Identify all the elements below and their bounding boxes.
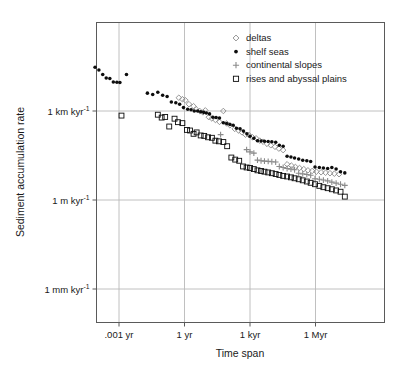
data-point (189, 108, 193, 112)
x-axis-title: Time span (216, 347, 265, 359)
data-point (125, 73, 129, 77)
data-point (252, 137, 256, 141)
data-point (118, 81, 122, 85)
data-point (146, 91, 150, 95)
data-point (196, 109, 200, 113)
data-point (245, 132, 249, 136)
data-point (313, 165, 317, 169)
data-point (205, 111, 209, 115)
legend-label: continental slopes (246, 59, 322, 70)
data-point (112, 80, 116, 84)
data-point (270, 140, 274, 144)
data-point (326, 167, 330, 171)
data-point (334, 167, 338, 171)
data-point (156, 90, 160, 94)
data-point (225, 122, 229, 126)
data-point (214, 116, 218, 120)
legend-label: shelf seas (246, 46, 289, 57)
data-point (151, 93, 155, 97)
legend-item-rises-and-abyssal-plains[interactable]: rises and abyssal plains (233, 73, 347, 84)
x-tick-label: 1 kyr (240, 329, 261, 340)
data-point (297, 157, 301, 161)
data-point (174, 101, 178, 105)
data-point (170, 100, 174, 104)
data-point (165, 95, 169, 99)
data-point (263, 140, 267, 144)
data-point (208, 112, 212, 116)
data-point (330, 166, 334, 170)
y-tick-label: 1 km kyr-1 (48, 105, 90, 117)
data-point (259, 139, 263, 143)
data-point (93, 65, 97, 69)
y-tick-label: 1 mm kyr-1 (44, 283, 89, 295)
chart-figure: .001 yr1 yr1 kyr1 Myr 1 km kyr-11 m kyr-… (0, 0, 401, 374)
data-point (274, 141, 278, 145)
legend-item-continental-slopes[interactable]: continental slopes (233, 59, 322, 70)
data-point (309, 160, 313, 164)
data-point (192, 109, 196, 113)
data-point (318, 166, 322, 170)
data-point (182, 106, 186, 110)
data-point (235, 127, 239, 131)
x-tick-label: 1 yr (177, 329, 193, 340)
legend-marker-circle-filled (234, 50, 238, 54)
x-tick-label: .001 yr (104, 329, 133, 340)
y-axis-title: Sediment accumulation rate (14, 107, 26, 237)
data-point (322, 166, 326, 170)
data-point (242, 129, 246, 133)
data-point (108, 77, 112, 81)
data-point (248, 135, 252, 139)
data-point (231, 124, 235, 128)
legend-label: deltas (246, 32, 272, 43)
data-point (222, 121, 226, 125)
data-point (285, 154, 289, 158)
legend-label: rises and abyssal plains (246, 73, 347, 84)
data-point (178, 102, 182, 106)
data-point (343, 171, 347, 175)
data-point (339, 170, 343, 174)
data-point (256, 139, 260, 143)
data-point (199, 110, 203, 114)
data-point (278, 143, 282, 147)
data-point (211, 115, 215, 119)
data-point (228, 123, 232, 127)
x-tick-label: 1 Myr (304, 329, 328, 340)
data-point (115, 81, 119, 85)
data-point (101, 73, 105, 77)
data-point (104, 76, 108, 80)
data-point (238, 127, 242, 131)
data-point (161, 93, 165, 97)
data-point (186, 107, 190, 111)
data-point (281, 144, 285, 148)
data-point (293, 156, 297, 160)
data-point (266, 140, 270, 144)
data-point (97, 68, 101, 72)
sediment-accumulation-scatter-chart: .001 yr1 yr1 kyr1 Myr 1 km kyr-11 m kyr-… (0, 0, 401, 374)
data-point (305, 159, 309, 163)
data-point (289, 155, 293, 159)
data-point (301, 158, 305, 162)
data-point (218, 116, 222, 120)
